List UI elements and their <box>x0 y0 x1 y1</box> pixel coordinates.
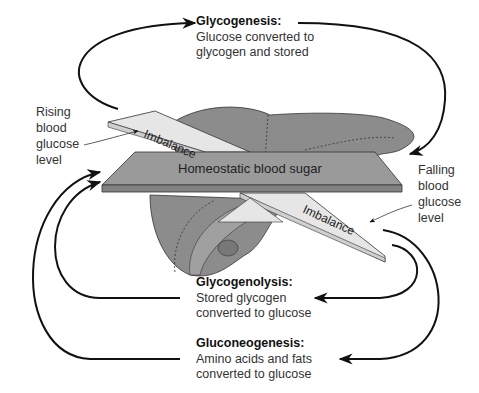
glycogenolysis-title: Glycogenolysis: <box>196 275 311 291</box>
falling-glucose-label: Falling blood glucose level <box>418 162 461 226</box>
rising-glucose-label: Rising blood glucose level <box>36 104 79 168</box>
gluconeogenesis-title: Gluconeogenesis: <box>196 336 312 352</box>
glycogenolysis-line-2: converted to glucose <box>196 306 311 322</box>
rising-line-3: glucose <box>36 136 79 152</box>
glycogenolysis-line-1: Stored glycogen <box>196 291 311 307</box>
glycogenesis-title: Glycogenesis: <box>196 14 314 30</box>
rising-line-1: Rising <box>36 104 79 120</box>
rising-line-4: level <box>36 152 79 168</box>
glycogenesis-arrow-in <box>79 23 195 109</box>
homeostatic-label: Homeostatic blood sugar <box>178 161 322 176</box>
falling-line-1: Falling <box>418 162 461 178</box>
rising-pointer <box>84 131 138 145</box>
falling-pointer <box>370 205 412 222</box>
falling-line-2: blood <box>418 178 461 194</box>
falling-line-4: level <box>418 210 461 226</box>
gluconeogenesis-line-1: Amino acids and fats <box>196 352 312 368</box>
rising-line-2: blood <box>36 120 79 136</box>
falling-line-3: glucose <box>418 194 461 210</box>
glucose-homeostasis-diagram: Imbalance Imbalance Homeostatic blood su… <box>0 0 479 393</box>
gluconeogenesis-arrow-out <box>340 230 439 359</box>
glycogenesis-label: Glycogenesis: Glucose converted to glyco… <box>196 14 314 61</box>
gluconeogenesis-label: Gluconeogenesis: Amino acids and fats co… <box>196 336 312 383</box>
glycogenesis-line-1: Glucose converted to <box>196 30 314 46</box>
glycogenesis-line-2: glycogen and stored <box>196 45 314 61</box>
glycogenolysis-label: Glycogenolysis: Stored glycogen converte… <box>196 275 311 322</box>
gluconeogenesis-line-2: converted to glucose <box>196 367 312 383</box>
